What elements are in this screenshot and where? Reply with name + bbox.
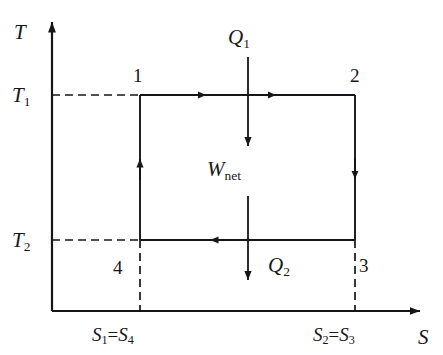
heat-out-label: Q2 <box>268 255 290 278</box>
entropy-tick-label-s2-s3: S2=S3 <box>313 325 355 347</box>
state-point-label-1: 1 <box>133 66 143 85</box>
temperature-tick-label-t2: T2 <box>12 230 30 253</box>
x-axis-label: S <box>418 327 429 348</box>
ts-diagram-figure: T S T1 T2 1 2 3 4 Q1 Q2 Wnet S1=S4 S2=S3 <box>0 0 443 355</box>
y-axis-label: T <box>14 22 26 43</box>
state-point-label-2: 2 <box>350 66 360 85</box>
heat-in-label: Q1 <box>228 27 250 50</box>
state-point-label-3: 3 <box>359 256 369 275</box>
temperature-tick-label-t1: T1 <box>12 85 30 108</box>
net-work-label: Wnet <box>207 159 241 182</box>
entropy-tick-label-s1-s4: S1=S4 <box>92 325 134 347</box>
state-point-label-4: 4 <box>113 258 123 277</box>
projection-lines-group <box>52 95 355 311</box>
